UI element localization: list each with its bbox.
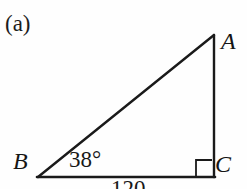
hypotenuse-line [38,35,214,177]
vertex-label-c: C [215,152,231,176]
right-angle-marker-icon [196,160,212,176]
triangle-drawing [0,0,247,189]
side-length-label: 120 [111,177,146,189]
figure-panel: (a) A B C 38° 120 [0,0,247,189]
angle-measure-label: 38° [69,148,101,171]
vertex-label-b: B [13,149,28,173]
vertex-label-a: A [221,29,236,53]
